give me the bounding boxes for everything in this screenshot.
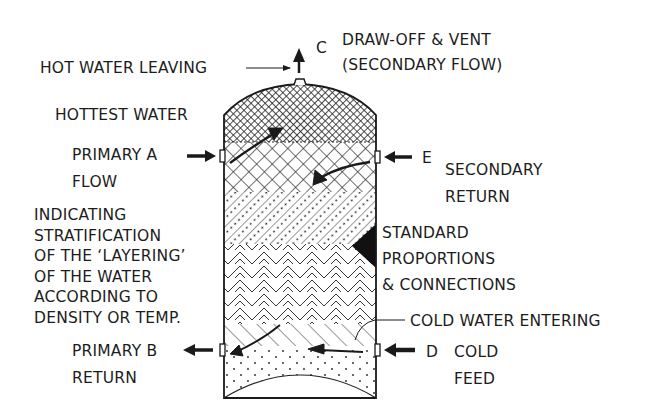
- layer-warm: [220, 192, 380, 244]
- strat-line-6: DENSITY OR TEMP.: [34, 308, 186, 329]
- arrow-primary-return-out-icon: [183, 344, 213, 356]
- layer-hottest: [220, 80, 380, 142]
- label-primary-b-line2: RETURN: [72, 368, 157, 389]
- arrow-primary-flow-in-icon: [187, 150, 216, 162]
- standard-line-1: STANDARD: [382, 220, 516, 246]
- label-hot-water-leaving: HOT WATER LEAVING: [40, 58, 207, 79]
- label-secondary-return-line2: RETURN: [445, 187, 543, 208]
- label-primary-a: PRIMARY A FLOW: [72, 145, 157, 193]
- label-stratification: INDICATING STRATIFICATION OF THE ‘LAYERI…: [34, 205, 186, 328]
- label-draw-off-line1: DRAW-OFF & VENT: [342, 30, 503, 51]
- label-primary-a-line1: PRIMARY A: [72, 145, 157, 166]
- connection-b: [220, 344, 225, 356]
- label-hottest-water: HOTTEST WATER: [55, 105, 188, 126]
- label-draw-off-line2: (SECONDARY FLOW): [342, 55, 503, 76]
- strat-line-1: INDICATING: [34, 205, 186, 226]
- label-cold-feed-line2: FEED: [454, 369, 498, 390]
- label-secondary-return: SECONDARY RETURN: [445, 160, 543, 208]
- label-cold-feed-line1: COLD: [454, 342, 498, 363]
- arrow-secondary-return-in-icon: [384, 151, 412, 163]
- arrow-cold-feed-in-icon: [384, 343, 415, 357]
- label-connection-d: D: [426, 342, 438, 363]
- connection-e: [375, 151, 380, 163]
- label-primary-b-line1: PRIMARY B: [72, 341, 157, 362]
- strat-line-5: ACCORDING TO: [34, 287, 186, 308]
- layer-cool: [220, 324, 380, 346]
- label-connection-e: E: [422, 148, 432, 169]
- water-layers: [220, 80, 380, 402]
- layer-tepid: [220, 244, 380, 324]
- strat-line-2: STRATIFICATION: [34, 226, 186, 247]
- label-connection-c: C: [316, 38, 327, 59]
- label-cold-water-entering: COLD WATER ENTERING: [410, 311, 601, 332]
- strat-line-3: OF THE ‘LAYERING’: [34, 246, 186, 267]
- label-standard-proportions: STANDARD PROPORTIONS & CONNECTIONS: [382, 220, 516, 298]
- standard-line-2: PROPORTIONS: [382, 246, 516, 272]
- label-secondary-return-line1: SECONDARY: [445, 160, 543, 181]
- label-cold-feed: COLD FEED: [454, 342, 498, 390]
- label-primary-a-line2: FLOW: [72, 172, 157, 193]
- label-draw-off: DRAW-OFF & VENT (SECONDARY FLOW): [342, 30, 503, 76]
- standard-line-3: & CONNECTIONS: [382, 272, 516, 298]
- label-primary-b: PRIMARY B RETURN: [72, 341, 157, 389]
- connection-a: [220, 150, 225, 162]
- arrow-draw-off-up-icon: [293, 48, 305, 73]
- strat-line-4: OF THE WATER: [34, 267, 186, 288]
- layer-hot: [220, 142, 380, 192]
- vent-connection: [294, 79, 306, 85]
- connection-d: [375, 344, 380, 356]
